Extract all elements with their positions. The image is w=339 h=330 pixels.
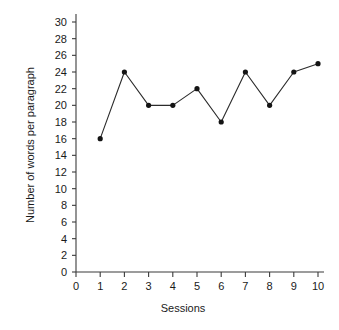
x-tick-label: 1 (97, 280, 103, 292)
x-tick-label: 7 (242, 280, 248, 292)
x-tick-label-group: 012345678910 (73, 280, 324, 292)
x-tick-label: 2 (121, 280, 127, 292)
y-tick-group (72, 22, 76, 272)
y-tick-label: 6 (61, 216, 67, 228)
data-point (291, 69, 296, 74)
y-tick-label: 16 (55, 133, 67, 145)
y-axis-title: Number of words per paragraph (24, 67, 36, 223)
x-tick-label: 9 (291, 280, 297, 292)
data-series (98, 61, 321, 141)
y-tick-label: 30 (55, 16, 67, 28)
y-tick-label-group: 024681012141618202224262830 (55, 16, 67, 278)
series-marker-group (98, 61, 321, 141)
chart-canvas: 024681012141618202224262830 012345678910… (0, 0, 339, 330)
data-point (98, 136, 103, 141)
data-point (194, 86, 199, 91)
x-axis: 012345678910 (73, 272, 324, 292)
y-tick-label: 20 (55, 99, 67, 111)
x-tick-label: 4 (170, 280, 176, 292)
data-point (243, 69, 248, 74)
y-tick-label: 22 (55, 83, 67, 95)
y-tick-label: 12 (55, 166, 67, 178)
x-tick-label: 3 (146, 280, 152, 292)
x-tick-group (76, 272, 318, 277)
y-tick-label: 14 (55, 149, 67, 161)
x-tick-label: 8 (267, 280, 273, 292)
x-tick-label: 10 (312, 280, 324, 292)
x-tick-label: 5 (194, 280, 200, 292)
x-tick-label: 0 (73, 280, 79, 292)
data-point (170, 103, 175, 108)
data-point (267, 103, 272, 108)
y-tick-label: 4 (61, 233, 67, 245)
y-tick-label: 2 (61, 249, 67, 261)
y-tick-label: 18 (55, 116, 67, 128)
y-tick-label: 28 (55, 33, 67, 45)
y-tick-label: 8 (61, 199, 67, 211)
data-point (315, 61, 320, 66)
y-tick-label: 26 (55, 49, 67, 61)
series-line (100, 64, 318, 139)
y-tick-label: 0 (61, 266, 67, 278)
data-point (219, 119, 224, 124)
y-tick-label: 24 (55, 66, 67, 78)
y-tick-label: 10 (55, 183, 67, 195)
line-chart: 024681012141618202224262830 012345678910… (0, 0, 339, 330)
data-point (122, 69, 127, 74)
x-tick-label: 6 (218, 280, 224, 292)
y-axis: 024681012141618202224262830 (55, 14, 76, 278)
data-point (146, 103, 151, 108)
x-axis-title: Sessions (161, 302, 206, 314)
